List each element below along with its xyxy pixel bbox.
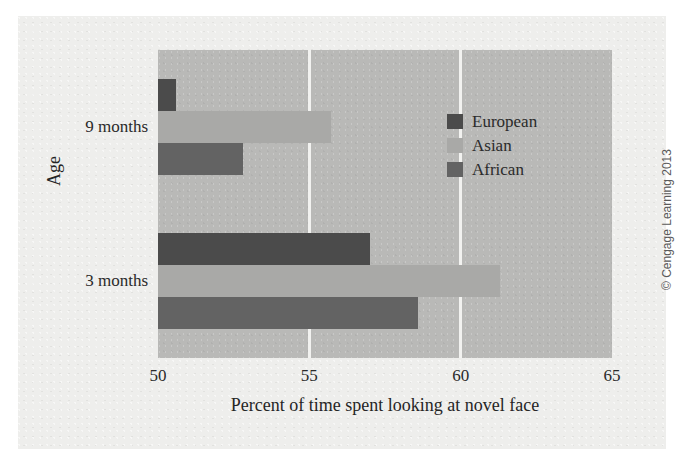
legend-swatch-african-icon	[447, 162, 463, 177]
legend-label-african: African	[472, 161, 524, 178]
bar-european-9-months	[158, 79, 176, 111]
y-axis-tick-labels: 9 months3 months	[40, 50, 148, 358]
y-axis-title: Age	[44, 156, 65, 186]
bar-asian-3-months	[158, 265, 500, 297]
bar-european-3-months	[158, 233, 370, 265]
x-axis-title: Percent of time spent looking at novel f…	[158, 395, 612, 416]
bar-african-3-months	[158, 297, 418, 329]
legend-label-european: European	[472, 113, 537, 130]
bar-asian-9-months	[158, 111, 331, 143]
bar-african-9-months	[158, 143, 243, 175]
figure-root: European Asian African 50556065 9 months…	[0, 0, 684, 465]
x-tick-label-50: 50	[150, 366, 167, 386]
legend-item-african: African	[447, 157, 597, 181]
y-tick-label-9-months: 9 months	[85, 117, 148, 137]
x-tick-label-60: 60	[452, 366, 469, 386]
gridline-60	[459, 50, 462, 358]
plot-area	[158, 50, 612, 358]
legend-item-asian: Asian	[447, 133, 597, 157]
legend-swatch-asian-icon	[447, 138, 463, 153]
copyright-notice: © Cengage Learning 2013	[660, 149, 674, 290]
legend: European Asian African	[447, 109, 597, 181]
y-axis-title-anchor: Age	[46, 0, 47, 1]
legend-label-asian: Asian	[472, 137, 512, 154]
legend-swatch-european-icon	[447, 114, 463, 129]
y-tick-label-3-months: 3 months	[85, 271, 148, 291]
x-tick-label-65: 65	[604, 366, 621, 386]
legend-item-european: European	[447, 109, 597, 133]
x-tick-label-55: 55	[301, 366, 318, 386]
